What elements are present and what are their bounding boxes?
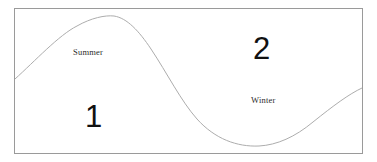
region-number-two: 2 <box>253 33 270 64</box>
sine-curve <box>15 9 362 153</box>
plot-frame: Summer Winter 1 2 <box>14 8 363 154</box>
label-summer: Summer <box>73 47 103 57</box>
region-number-one: 1 <box>85 101 102 132</box>
seasonal-sine-figure: Summer Winter 1 2 <box>0 0 377 162</box>
sine-curve-path <box>15 16 362 146</box>
label-winter: Winter <box>251 95 275 105</box>
